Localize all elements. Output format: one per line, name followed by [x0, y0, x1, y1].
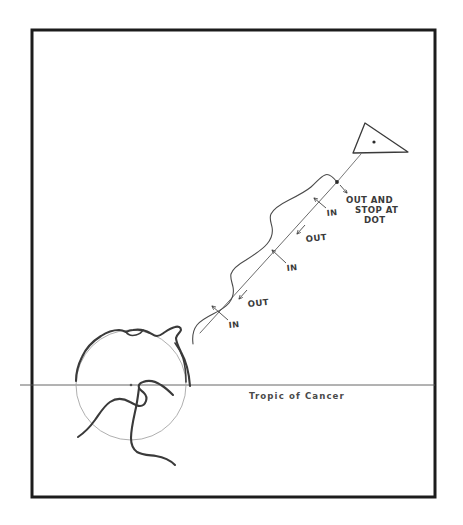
- earth-center-dot: [130, 384, 133, 387]
- figure-root: IN OUT IN OUT IN OUT AND STOP AT DOT Tro…: [0, 0, 463, 525]
- annotation-in-2-arrow: [272, 250, 286, 263]
- earth-coastline-lower: [78, 381, 173, 437]
- annotation-in-1-label: IN: [228, 319, 240, 330]
- annotation-out-1-label: OUT: [247, 297, 269, 309]
- annotation-in-3-label: IN: [326, 207, 338, 218]
- terminal-dot: [335, 180, 339, 184]
- annotation-out-stop-line-3: DOT: [364, 215, 386, 225]
- target-dot: [372, 140, 375, 143]
- border-frame: [32, 30, 435, 497]
- annotation-out-stop-arrow: [340, 185, 347, 193]
- annotation-out-stop-line-1: OUT AND: [346, 195, 393, 205]
- target-connector-line: [337, 154, 361, 182]
- annotation-in-3-arrow: [314, 198, 326, 208]
- annotation-in-2-label: IN: [286, 262, 298, 273]
- annotation-out-1-arrow: [239, 290, 247, 299]
- annotation-out-2-arrow: [297, 225, 305, 234]
- earth-coastline-tail: [131, 388, 175, 465]
- figure-svg: IN OUT IN OUT IN OUT AND STOP AT DOT Tro…: [0, 0, 463, 525]
- annotation-out-2-label: OUT: [305, 232, 327, 244]
- tropic-of-cancer-label: Tropic of Cancer: [249, 391, 345, 401]
- annotation-out-stop-line-2: STOP AT: [355, 205, 398, 215]
- target-triangle: [353, 123, 408, 153]
- wavy-oscillating-path: [193, 174, 337, 344]
